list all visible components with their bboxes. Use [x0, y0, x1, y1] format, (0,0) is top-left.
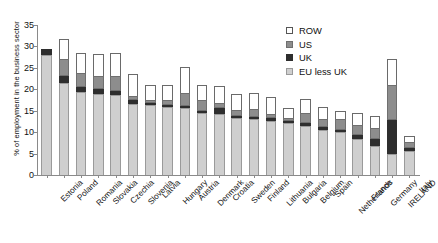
bar-segment-us: [300, 113, 311, 122]
legend-item-row[interactable]: ROW: [286, 24, 347, 38]
bar-stack: [335, 111, 346, 175]
bar-stack: [59, 39, 70, 175]
x-axis-tick-mark: [254, 175, 255, 178]
bar-segment-eu: [110, 95, 121, 175]
bar-stack: [145, 85, 156, 175]
x-axis-tick-mark: [202, 175, 203, 178]
chart-legend: ROWUSUKEU less UK: [286, 24, 347, 78]
x-axis-tick-mark: [409, 175, 410, 178]
x-axis-tick-mark: [219, 175, 220, 178]
legend-label: EU less UK: [299, 66, 347, 77]
bar-segment-eu: [335, 132, 346, 175]
bar-segment-eu: [214, 114, 225, 175]
bar-segment-eu: [404, 151, 415, 175]
legend-item-eu[interactable]: EU less UK: [286, 65, 347, 79]
bar-segment-us: [197, 100, 208, 110]
bar-stack: [370, 116, 381, 175]
y-axis-tick-mark: [34, 25, 38, 26]
y-axis-tick-mark: [34, 111, 38, 112]
x-axis-line: [38, 175, 420, 176]
bar-segment-row: [180, 67, 191, 93]
bar-segment-row: [162, 85, 173, 100]
bar-segment-row: [352, 113, 363, 125]
bar-segment-row: [249, 93, 260, 110]
bar-segment-eu: [197, 113, 208, 175]
bar-segment-uk: [370, 139, 381, 146]
x-axis-tick-mark: [323, 175, 324, 178]
x-axis-tick-mark: [81, 175, 82, 178]
x-axis-tick-mark: [64, 175, 65, 178]
bar-segment-eu: [352, 139, 363, 175]
y-axis-title: % of employment in the business sector: [12, 9, 21, 169]
x-axis-tick-mark: [150, 175, 151, 178]
bar-stack: [180, 67, 191, 175]
bar-stack: [128, 74, 139, 175]
bar-segment-eu: [76, 92, 87, 175]
bar-segment-us: [110, 76, 121, 91]
bar-stack: [41, 49, 52, 175]
legend-label: ROW: [299, 25, 322, 36]
bar-segment-uk: [59, 76, 70, 83]
bar-segment-eu: [59, 83, 70, 175]
bar-segment-row: [214, 86, 225, 103]
bar-segment-us: [387, 85, 398, 120]
legend-label: US: [299, 39, 312, 50]
y-axis-tick-mark: [34, 46, 38, 47]
x-axis-tick-mark: [116, 175, 117, 178]
bar-segment-us: [370, 128, 381, 139]
bar-segment-eu: [180, 108, 191, 175]
bar-segment-eu: [145, 105, 156, 175]
bar-segment-row: [370, 116, 381, 128]
bar-segment-row: [318, 107, 329, 119]
bar-segment-us: [318, 119, 329, 126]
legend-item-us[interactable]: US: [286, 38, 347, 52]
x-axis-tick-mark: [185, 175, 186, 178]
y-axis-tick-label: 10: [24, 127, 34, 137]
bar-segment-us: [76, 73, 87, 87]
y-axis-tick-label: 20: [24, 84, 34, 94]
x-axis-tick-mark: [375, 175, 376, 178]
bar-stack: [318, 107, 329, 175]
bar-segment-uk: [387, 120, 398, 154]
y-axis-tick-mark: [34, 68, 38, 69]
bar-stack: [266, 97, 277, 175]
x-axis-tick-mark: [340, 175, 341, 178]
bar-segment-row: [283, 108, 294, 118]
bar-segment-eu: [128, 104, 139, 175]
bar-segment-us: [59, 59, 70, 76]
bar-segment-eu: [162, 107, 173, 175]
bar-segment-eu: [41, 55, 52, 175]
bar-segment-eu: [318, 130, 329, 175]
legend-item-uk[interactable]: UK: [286, 51, 347, 65]
legend-swatch-us-icon: [286, 41, 293, 48]
bar-segment-eu: [266, 121, 277, 175]
x-axis-tick-mark: [98, 175, 99, 178]
bar-stack: [93, 54, 104, 175]
x-axis-tick-mark: [133, 175, 134, 178]
bar-segment-eu: [93, 94, 104, 175]
bar-segment-eu: [283, 123, 294, 175]
bar-segment-eu: [300, 126, 311, 175]
x-axis-tick-mark: [288, 175, 289, 178]
bar-stack: [387, 59, 398, 175]
legend-swatch-eu-icon: [286, 68, 293, 75]
bar-segment-row: [145, 85, 156, 99]
x-axis-tick-mark: [47, 175, 48, 178]
bar-stack: [404, 136, 415, 175]
bar-segment-row: [197, 85, 208, 100]
legend-swatch-row-icon: [286, 27, 293, 34]
y-axis-tick-mark: [34, 175, 38, 176]
x-axis-tick-label: France: [369, 178, 393, 202]
bar-segment-row: [76, 53, 87, 74]
bar-segment-eu: [387, 154, 398, 175]
bar-stack: [197, 85, 208, 175]
x-axis-tick-mark: [306, 175, 307, 178]
bar-segment-row: [300, 99, 311, 113]
bar-segment-row: [266, 97, 277, 114]
bar-segment-row: [335, 111, 346, 120]
bar-stack: [352, 113, 363, 175]
y-axis-tick-mark: [34, 132, 38, 133]
bar-stack: [249, 93, 260, 175]
y-axis-tick-label: 15: [24, 106, 34, 116]
